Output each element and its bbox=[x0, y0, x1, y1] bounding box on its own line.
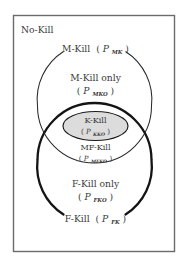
label-k-kill: K-Kill bbox=[84, 115, 106, 125]
label-mf-kill-close-paren: ) bbox=[109, 154, 112, 163]
label-f-kill-only: F-Kill only bbox=[72, 178, 120, 189]
label-m-kill-only-open-paren: ( bbox=[77, 85, 81, 96]
label-f-kill-symbol: P bbox=[101, 213, 109, 224]
label-m-kill-only-subscript: MKO bbox=[91, 91, 108, 97]
label-mf-kill-subscript: MFKO bbox=[90, 159, 107, 164]
label-m-kill-only-close-paren: ) bbox=[111, 85, 115, 96]
label-mf-kill-open-paren: ( bbox=[79, 154, 82, 163]
label-f-kill-only-close-paren: ) bbox=[110, 191, 114, 202]
label-f-kill-close-paren: ) bbox=[123, 213, 127, 224]
label-m-kill-text: M-Kill bbox=[62, 43, 90, 54]
label-k-kill-symbol: P bbox=[85, 127, 91, 136]
label-f-kill-only-symbol: P bbox=[83, 191, 91, 202]
label-mf-kill-symbol: P bbox=[83, 154, 89, 163]
label-f-kill-only-open-paren: ( bbox=[78, 191, 82, 202]
label-m-kill-only-symbol: P bbox=[82, 85, 90, 96]
label-k-kill-open-paren: ( bbox=[81, 127, 84, 136]
label-k-kill-subscript: KKO bbox=[92, 132, 105, 137]
figure-root: No-Kill M-Kill ( P MK ) M-Kill only ( P … bbox=[0, 0, 188, 266]
label-f-kill-only-subscript: FKO bbox=[93, 197, 107, 203]
label-m-kill-symbol: P bbox=[102, 43, 110, 54]
label-m-kill-subscript: MK bbox=[111, 49, 123, 55]
label-no-kill: No-Kill bbox=[21, 24, 53, 35]
label-f-kill-subscript: FK bbox=[110, 219, 120, 225]
venn-diagram-canvas: No-Kill M-Kill ( P MK ) M-Kill only ( P … bbox=[0, 0, 188, 266]
label-m-kill-open-paren: ( bbox=[96, 43, 100, 54]
label-f-kill-open-paren: ( bbox=[96, 213, 100, 224]
label-mf-kill: MF-Kill bbox=[80, 142, 110, 152]
label-m-kill-close-paren: ) bbox=[125, 43, 129, 54]
label-k-kill-close-paren: ) bbox=[107, 127, 110, 136]
label-f-kill-text: F-Kill bbox=[65, 213, 90, 224]
label-m-kill-only: M-Kill only bbox=[70, 72, 121, 83]
